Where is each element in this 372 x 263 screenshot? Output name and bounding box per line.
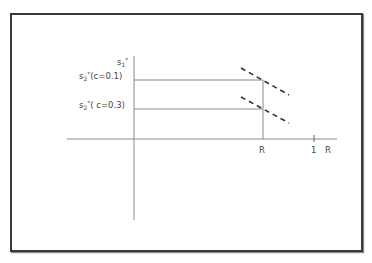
label-c01: s2*(c=0.1) bbox=[79, 71, 122, 82]
y-axis-label: s1* bbox=[117, 57, 128, 68]
dashed-line-c03 bbox=[241, 97, 289, 123]
diagram-canvas bbox=[0, 0, 372, 263]
x-tick-label-R: R bbox=[259, 146, 265, 155]
x-axis-label: R bbox=[325, 146, 331, 155]
label-c03: s2*( c=0.3) bbox=[79, 100, 125, 111]
dashed-line-c01 bbox=[241, 68, 289, 95]
x-tick-label-1: 1 bbox=[311, 146, 316, 155]
